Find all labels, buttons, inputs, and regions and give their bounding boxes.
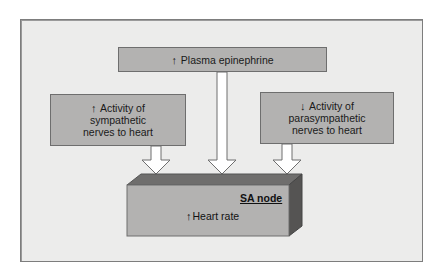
down-arrow-icon: ↓ <box>300 100 306 112</box>
arrow-sympathetic-to-sa-node <box>142 146 170 174</box>
up-arrow-icon: ↑ <box>91 102 97 114</box>
parasympathetic-line-3: nerves to heart <box>292 124 362 136</box>
sympathetic-activity-box: ↑ Activity of sympathetic nerves to hear… <box>50 94 186 146</box>
sympathetic-line-3: nerves to heart <box>83 126 153 138</box>
up-arrow-icon: ↑ <box>171 54 177 66</box>
heart-rate-label: ↑Heart rate <box>186 210 239 222</box>
parasympathetic-line-2: parasympathetic <box>288 112 365 124</box>
arrow-parasympathetic-to-sa-node <box>273 144 301 174</box>
sympathetic-line-1: Activity of <box>100 102 145 114</box>
heart-rate-text: Heart rate <box>193 210 240 222</box>
parasympathetic-line-1: Activity of <box>309 100 354 112</box>
sympathetic-line-2: sympathetic <box>90 114 146 126</box>
up-arrow-icon: ↑ <box>186 210 192 222</box>
plasma-epinephrine-label: Plasma epinephrine <box>181 54 274 66</box>
sa-node-block <box>127 174 302 236</box>
parasympathetic-activity-box: ↓ Activity of parasympathetic nerves to … <box>260 92 394 144</box>
sa-node-title: SA node <box>240 192 282 204</box>
arrow-epinephrine-to-sa-node <box>208 72 236 174</box>
plasma-epinephrine-box: ↑ Plasma epinephrine <box>118 47 327 72</box>
